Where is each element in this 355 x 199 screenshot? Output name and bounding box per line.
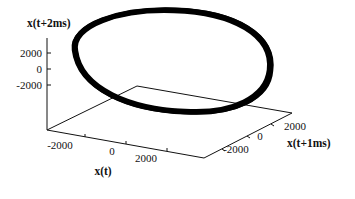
y-axis-label: x(t+1ms): [287, 137, 331, 150]
x-tick-label: 2000: [135, 152, 158, 164]
z-axis-label: x(t+2ms): [27, 17, 71, 30]
back-left-edge: [47, 86, 137, 130]
phase-space-plot: 2000 0 -2000 x(t+2ms) -2000 0 2000 x(t) …: [0, 0, 355, 199]
x-axis-label: x(t): [94, 165, 111, 178]
y-tick-label: -2000: [223, 143, 249, 155]
z-tick-label: -2000: [16, 79, 42, 91]
x-tick-label: 0: [109, 145, 115, 157]
y-tick-label: 0: [257, 130, 263, 142]
x-tick-label: -2000: [47, 139, 73, 151]
y-tick: [271, 124, 274, 126]
trajectory: [73, 9, 273, 114]
z-tick-label: 2000: [20, 47, 43, 59]
z-tick-label: 0: [37, 63, 43, 75]
y-tick-label: 2000: [284, 120, 307, 132]
y-tick: [247, 136, 250, 138]
